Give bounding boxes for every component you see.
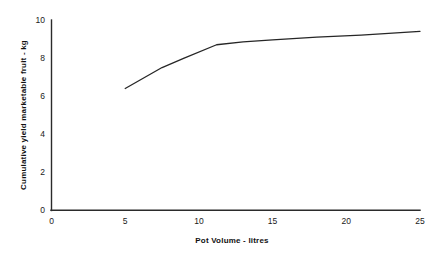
x-tick-label-15: 15 <box>268 216 278 226</box>
y-tick-label-0: 0 <box>40 205 45 215</box>
y-tick-label-10: 10 <box>36 15 46 25</box>
y-tick-label-8: 8 <box>40 53 45 63</box>
x-axis-title: Pot Volume - litres <box>195 236 269 245</box>
x-tick-label-0: 0 <box>49 216 54 226</box>
x-tick-label-25: 25 <box>415 216 425 226</box>
x-tick-label-10: 10 <box>194 216 204 226</box>
y-tick-label-6: 6 <box>40 91 45 101</box>
chart-background <box>0 0 432 255</box>
y-tick-label-2: 2 <box>40 167 45 177</box>
chart-figure: 10 8 6 4 2 0 0 5 10 15 20 25 Pot Volume … <box>0 0 432 255</box>
x-tick-label-5: 5 <box>123 216 128 226</box>
x-tick-label-20: 20 <box>342 216 352 226</box>
y-axis-title: Cumulative yield marketable fruit - kg <box>19 40 28 190</box>
chart-plot-area: 10 8 6 4 2 0 0 5 10 15 20 25 Pot Volume … <box>0 0 432 255</box>
y-tick-label-4: 4 <box>40 129 45 139</box>
